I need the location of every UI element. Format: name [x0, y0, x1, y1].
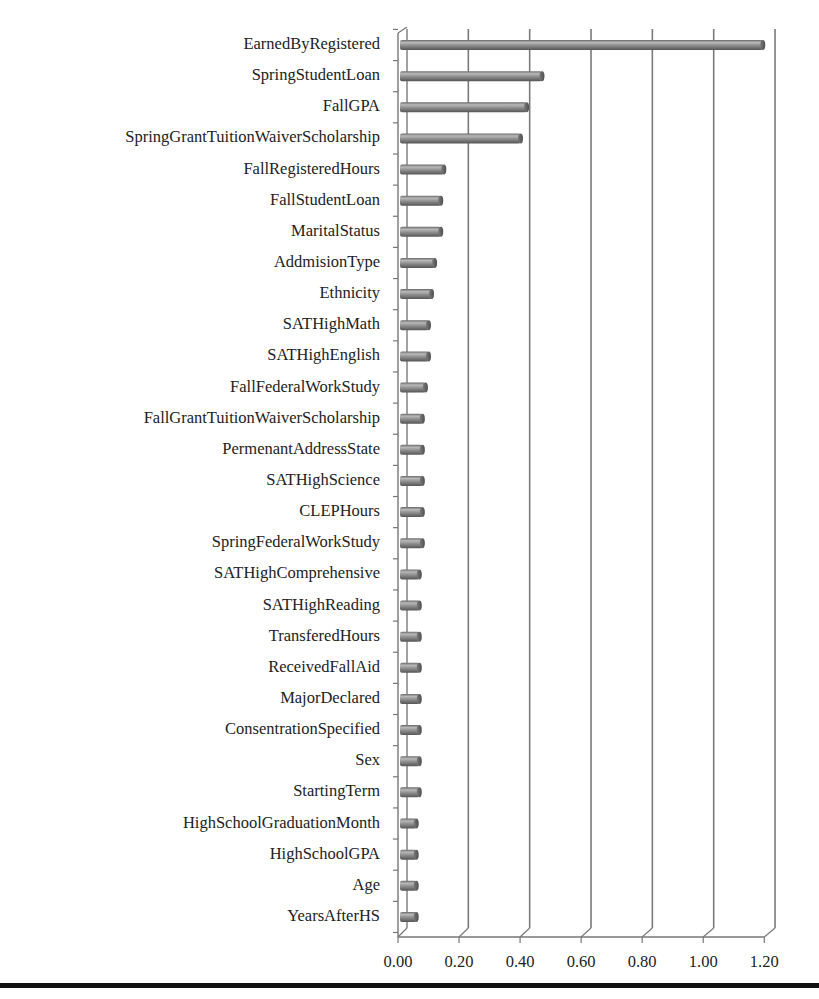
bar: Sex: 0.04 [400, 756, 422, 766]
x-tick-label: 0.60 [551, 952, 611, 972]
category-label: HighSchoolGraduationMonth [183, 813, 380, 833]
bar: EarnedByRegistered: 1.16 [400, 40, 765, 50]
category-label: SpringFederalWorkStudy [212, 532, 380, 552]
axes [393, 27, 764, 943]
bar: SATHighEnglish: 0.07 [400, 351, 431, 361]
gridlines [398, 29, 775, 937]
bar: FallGrantTuitionWaiverScholarship: 0.05 [400, 414, 425, 424]
bar: MaritalStatus: 0.11 [400, 227, 443, 237]
feature-importance-chart: EarnedByRegistered: 1.16SpringStudentLoa… [0, 0, 819, 999]
category-label: SpringStudentLoan [252, 65, 380, 85]
category-label: ConsentrationSpecified [225, 719, 380, 739]
category-label: YearsAfterHS [287, 906, 380, 926]
page-rule [0, 983, 819, 988]
bar: FallGPA: 0.39 [400, 102, 529, 112]
bar: SATHighReading: 0.04 [400, 601, 422, 611]
bar: AddmisionType: 0.09 [400, 258, 437, 268]
bar: TransferedHours: 0.04 [400, 632, 422, 642]
bar: SATHighScience: 0.05 [400, 476, 425, 486]
category-label: SpringGrantTuitionWaiverScholarship [125, 127, 380, 147]
category-label: Ethnicity [320, 283, 381, 303]
category-label: SATHighScience [266, 470, 380, 490]
bar: SpringStudentLoan: 0.44 [400, 71, 544, 81]
category-label: TransferedHours [269, 626, 380, 646]
bar: YearsAfterHS: 0.03 [400, 912, 419, 922]
category-label: Sex [355, 750, 380, 770]
bar: ReceivedFallAid: 0.04 [400, 663, 422, 673]
bar: SpringFederalWorkStudy: 0.05 [400, 538, 425, 548]
bar: FallRegisteredHours: 0.12 [400, 165, 446, 175]
category-label: SATHighMath [283, 314, 380, 334]
category-label: FallGrantTuitionWaiverScholarship [144, 408, 380, 428]
category-label: ReceivedFallAid [268, 657, 380, 677]
category-label: Age [353, 875, 381, 895]
x-tick-label: 0.20 [429, 952, 489, 972]
bar: SpringGrantTuitionWaiverScholarship: 0.3… [400, 133, 523, 143]
category-label: HighSchoolGPA [270, 844, 380, 864]
category-label: FallStudentLoan [270, 190, 380, 210]
category-label: FallFederalWorkStudy [230, 377, 380, 397]
x-tick-label: 1.20 [734, 952, 794, 972]
bar: HighSchoolGraduationMonth: 0.03 [400, 819, 419, 829]
bar: Age: 0.03 [400, 881, 419, 891]
bar: MajorDeclared: 0.04 [400, 694, 422, 704]
bar: SATHighMath: 0.07 [400, 320, 431, 330]
bar: ConsentrationSpecified: 0.04 [400, 725, 422, 735]
bar: StartingTerm: 0.04 [400, 787, 422, 797]
bar: FallStudentLoan: 0.11 [400, 196, 443, 206]
category-label: PermenantAddressState [222, 439, 380, 459]
bar: HighSchoolGPA: 0.03 [400, 850, 419, 860]
bar: FallFederalWorkStudy: 0.06 [400, 383, 428, 393]
category-label: StartingTerm [293, 781, 380, 801]
bar: CLEPHours: 0.05 [400, 507, 425, 517]
category-label: EarnedByRegistered [243, 34, 380, 54]
x-tick-label: 0.40 [490, 952, 550, 972]
category-label: FallGPA [323, 96, 380, 116]
bar: SATHighComprehensive: 0.04 [400, 569, 422, 579]
category-label: MajorDeclared [280, 688, 380, 708]
x-tick-label: 0.80 [612, 952, 672, 972]
category-label: CLEPHours [299, 501, 380, 521]
bar: Ethnicity: 0.08 [400, 289, 434, 299]
category-label: AddmisionType [274, 252, 380, 272]
category-label: SATHighEnglish [267, 345, 380, 365]
category-label: MaritalStatus [291, 221, 380, 241]
x-tick-label: 1.00 [673, 952, 733, 972]
x-tick-label: 0.00 [368, 952, 428, 972]
category-label: SATHighReading [263, 595, 380, 615]
bars: EarnedByRegistered: 1.16SpringStudentLoa… [400, 40, 765, 922]
bar: PermenantAddressState: 0.05 [400, 445, 425, 455]
category-label: FallRegisteredHours [243, 159, 380, 179]
category-label: SATHighComprehensive [214, 563, 380, 583]
